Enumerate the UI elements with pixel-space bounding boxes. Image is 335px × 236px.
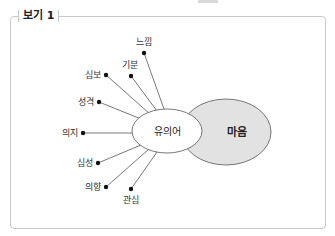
dot-icon — [129, 74, 133, 78]
connector-line — [98, 145, 141, 163]
main-concept-label: 마음 — [227, 125, 247, 139]
synonym-diagram: 느낌 기분 심보 성격 의지 심성 의향 관심 유의어 마음 — [0, 0, 335, 236]
connector-line — [106, 149, 149, 187]
dot-icon — [104, 73, 108, 77]
connector-line — [131, 152, 157, 189]
synonym-label: 의지 — [62, 128, 78, 138]
synonym-label: 성격 — [78, 96, 94, 107]
synonym-label: 의향 — [85, 181, 101, 192]
connector-line — [144, 53, 164, 109]
dot-icon — [97, 100, 101, 104]
synonym-label: 기분 — [122, 60, 138, 70]
synonym-label: 관심 — [123, 195, 139, 205]
connector-line — [99, 102, 141, 119]
dot-icon — [142, 51, 146, 55]
dot-icon — [96, 161, 100, 165]
dot-icon — [104, 185, 108, 189]
connector-line — [106, 75, 150, 114]
connector-line — [131, 76, 157, 111]
center-label: 유의어 — [154, 126, 181, 137]
synonym-label: 느낌 — [136, 36, 152, 47]
synonym-label: 심보 — [85, 70, 101, 80]
dot-icon — [81, 131, 85, 135]
synonym-label: 심성 — [77, 158, 93, 168]
dot-icon — [129, 187, 133, 191]
